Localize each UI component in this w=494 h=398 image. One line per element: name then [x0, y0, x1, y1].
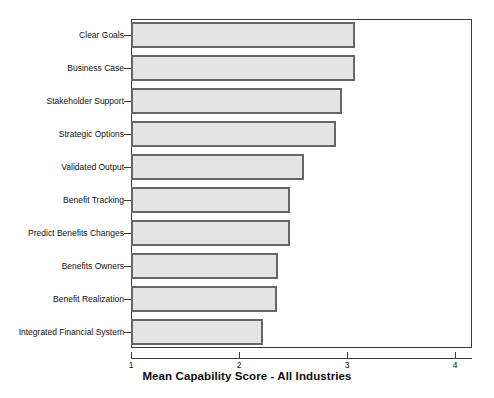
x-axis-tick	[347, 352, 348, 359]
x-axis-tick-label: 1	[119, 360, 143, 370]
y-axis-tick	[124, 233, 131, 234]
y-axis-label: Clear Goals	[79, 29, 124, 41]
y-axis-tick	[124, 101, 131, 102]
bar	[131, 319, 263, 345]
y-axis-label: Benefit Tracking	[63, 194, 124, 206]
bar	[131, 286, 277, 312]
y-axis-tick	[124, 68, 131, 69]
y-axis-category-labels: Clear GoalsBusiness CaseStakeholder Supp…	[0, 19, 124, 348]
y-axis-label: Integrated Financial System	[19, 326, 124, 338]
bar	[131, 187, 290, 213]
bar	[131, 154, 304, 180]
x-axis-tick	[455, 352, 456, 359]
bar	[131, 55, 355, 81]
x-axis-tick-label: 2	[227, 360, 251, 370]
x-axis-tick-label: 4	[443, 360, 467, 370]
bar	[131, 220, 290, 246]
y-axis-tick	[124, 299, 131, 300]
y-axis-label: Benefit Realization	[53, 293, 124, 305]
y-axis-tick	[124, 332, 131, 333]
bar-chart: Clear GoalsBusiness CaseStakeholder Supp…	[0, 0, 494, 398]
y-axis-label: Benefits Owners	[62, 260, 124, 272]
bar	[131, 121, 336, 147]
y-axis-tick	[124, 167, 131, 168]
y-axis-tick	[124, 200, 131, 201]
y-axis-label: Business Case	[67, 62, 124, 74]
x-axis-line	[131, 358, 472, 359]
y-axis-label: Stakeholder Support	[47, 95, 125, 107]
x-axis-tick	[239, 352, 240, 359]
y-axis-label: Strategic Options	[59, 128, 124, 140]
y-axis-tick	[124, 134, 131, 135]
x-axis-tick-label: 3	[335, 360, 359, 370]
x-axis-title: Mean Capability Score - All Industries	[0, 370, 494, 382]
x-axis-tick	[131, 352, 132, 359]
bar	[131, 88, 342, 114]
y-axis-tick	[124, 266, 131, 267]
y-axis-label: Validated Output	[61, 161, 124, 173]
bar	[131, 253, 278, 279]
bar	[131, 22, 355, 48]
y-axis-tick	[124, 35, 131, 36]
y-axis-label: Predict Benefits Changes	[28, 227, 124, 239]
